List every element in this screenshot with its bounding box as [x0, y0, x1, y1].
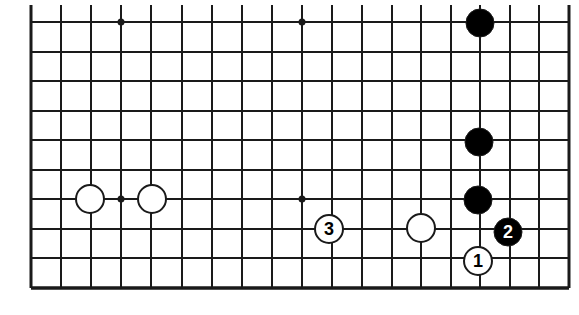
white-stone-left-outer[interactable] [76, 185, 104, 213]
black-stone-move-2[interactable] [494, 218, 522, 246]
white-stone-move-3[interactable] [315, 215, 343, 243]
star-point-lower-left [118, 196, 125, 203]
white-stone-center-right[interactable] [407, 214, 435, 242]
white-stone-move-1[interactable] [464, 247, 492, 275]
stones-layer [76, 9, 522, 275]
star-point-upper-left [118, 19, 125, 26]
go-board-diagram: 321 [0, 0, 579, 315]
star-point-upper-middle [299, 19, 306, 26]
goban-grid [0, 0, 579, 315]
black-stone-top-right[interactable] [466, 9, 494, 37]
black-stone-right-lower[interactable] [464, 186, 492, 214]
white-stone-left-inner[interactable] [138, 185, 166, 213]
star-point-lower-middle [299, 196, 306, 203]
black-stone-right-upper[interactable] [465, 128, 493, 156]
